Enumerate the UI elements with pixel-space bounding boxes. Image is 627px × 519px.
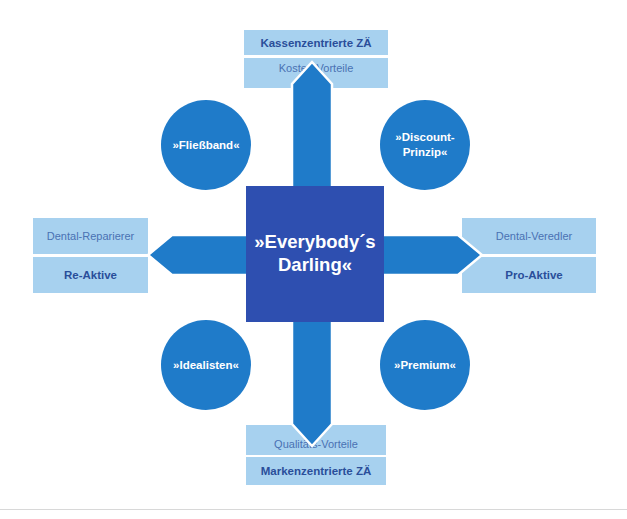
circle-top-right: »Discount- Prinzip«: [380, 100, 470, 190]
circle-bottom-right-label: »Premium«: [394, 358, 456, 373]
arrow-up-icon: [292, 62, 332, 188]
positioning-diagram: Kassenzentrierte ZÄ Kosten-Vorteile Dent…: [0, 0, 627, 519]
circle-top-right-label-line2: Prinzip«: [403, 145, 448, 160]
arrow-down-icon: [292, 320, 332, 446]
center-square: »Everybody´s Darling«: [246, 186, 384, 322]
circle-top-right-label-line1: »Discount-: [395, 130, 454, 145]
circle-bottom-right: »Premium«: [380, 320, 470, 410]
center-label-line1: »Everybody´s: [254, 231, 375, 254]
arrow-left-icon: [148, 235, 248, 275]
circle-top-left: »Fließband«: [161, 100, 251, 190]
circle-top-left-label: »Fließband«: [172, 138, 239, 153]
bottom-divider: [0, 509, 627, 510]
circle-bottom-left: »Idealisten«: [161, 320, 251, 410]
center-label-line2: Darling«: [278, 254, 352, 277]
arrow-right-icon: [382, 235, 482, 275]
circle-bottom-left-label: »Idealisten«: [173, 358, 239, 373]
